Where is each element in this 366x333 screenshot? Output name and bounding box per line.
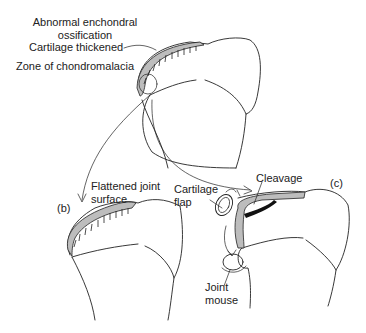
label-line: mouse — [205, 294, 238, 307]
label-line: Cartilage — [174, 183, 218, 196]
label-abnormal-ossification: Abnormal enchondral ossification — [22, 16, 148, 42]
label-line: Flattened joint — [91, 180, 160, 193]
label-cleavage: Cleavage — [256, 172, 302, 185]
bone-panel-a — [124, 38, 260, 168]
label-line: flap — [174, 196, 218, 209]
label-flattened-surface: Flattened joint surface — [91, 180, 160, 206]
label-chondromalacia: Zone of chondromalacia — [16, 60, 134, 73]
label-joint-mouse: Joint mouse — [205, 281, 238, 307]
cartilage-band-a — [137, 42, 204, 96]
joint-mouse-shape — [223, 254, 243, 270]
label-line: surface — [91, 193, 160, 206]
label-line: Joint — [205, 281, 238, 294]
label-line: Abnormal enchondral — [22, 16, 148, 29]
label-cartilage-flap: Cartilage flap — [174, 183, 218, 209]
panel-label-b: (b) — [57, 202, 70, 215]
arrow-to-c — [152, 100, 250, 190]
panel-label-c: (c) — [330, 177, 343, 190]
label-cartilage-thickened: Cartilage thickened — [29, 41, 123, 54]
bone-panel-b — [67, 200, 182, 320]
